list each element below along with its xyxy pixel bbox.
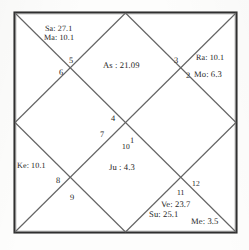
house-number-2: 2 bbox=[186, 72, 190, 81]
house-number-8: 8 bbox=[56, 177, 60, 186]
planet-reading-mo: Mo: 6.3 bbox=[194, 70, 222, 79]
house-number-5: 5 bbox=[69, 57, 73, 66]
house-number-10: 10 bbox=[122, 143, 130, 151]
house-number-7: 7 bbox=[100, 131, 104, 140]
planet-reading-ma: Ma: 10.1 bbox=[44, 34, 74, 42]
planet-reading-su: Su: 25.1 bbox=[149, 210, 178, 219]
vedic-birth-chart-page: Sa: 27.1Ma: 10.1As : 21.09Ra: 10.1Mo: 6.… bbox=[0, 0, 249, 250]
planet-reading-ve: Ve: 23.7 bbox=[161, 200, 190, 209]
house-number-3: 3 bbox=[174, 57, 178, 66]
planet-reading-me: Me: 3.5 bbox=[191, 217, 218, 226]
chart-label-layer: Sa: 27.1Ma: 10.1As : 21.09Ra: 10.1Mo: 6.… bbox=[0, 0, 249, 250]
house-number-11: 11 bbox=[177, 189, 185, 197]
house-number-1: 1 bbox=[130, 137, 134, 146]
house-number-9: 9 bbox=[70, 194, 74, 203]
planet-reading-ke: Ke: 10.1 bbox=[17, 162, 46, 170]
planet-reading-ju: Ju : 4.3 bbox=[109, 163, 135, 172]
planet-reading-ra: Ra: 10.1 bbox=[196, 54, 224, 62]
house-number-12: 12 bbox=[192, 180, 200, 188]
house-number-6: 6 bbox=[59, 69, 63, 78]
planet-reading-as: As : 21.09 bbox=[103, 61, 140, 70]
house-number-4: 4 bbox=[111, 115, 115, 124]
